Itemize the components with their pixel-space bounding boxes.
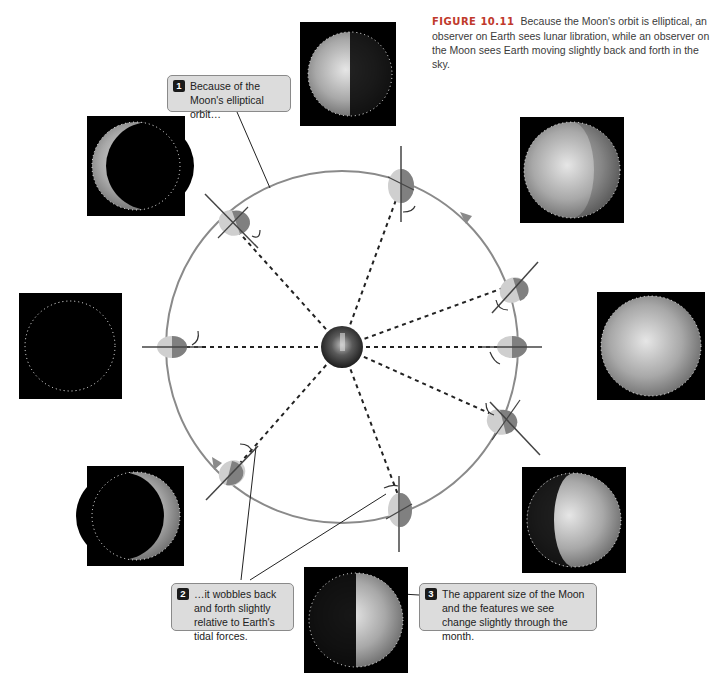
callout-2: 2 …it wobbles back and forth slightly re… — [171, 583, 294, 631]
libration-diagram — [0, 0, 718, 683]
callout-number: 2 — [177, 588, 189, 600]
callout-1-leader — [237, 112, 270, 188]
moon-photo-upper-left — [87, 116, 194, 216]
moon-photo-upper-right — [520, 117, 624, 223]
moon-photo-lower-left — [76, 466, 184, 566]
figure-label: FIGURE 10.11 — [432, 16, 515, 27]
moon-photo-bottom — [304, 567, 408, 673]
moon-photo-right — [597, 292, 705, 400]
moon-marker-right — [482, 336, 542, 364]
figure-caption: FIGURE 10.11 Because the Moon's orbit is… — [432, 14, 717, 71]
moon-marker-upper-left — [205, 194, 260, 248]
callout-number: 3 — [425, 588, 437, 600]
callout-3: 3 The apparent size of the Moon and the … — [419, 583, 597, 631]
moon-marker-bottom — [384, 476, 412, 552]
moon-photo-lower-right — [522, 467, 626, 573]
moon-photo-top — [300, 22, 396, 126]
moon-marker-upper-right — [492, 262, 538, 313]
moon-photo-left — [19, 293, 122, 399]
callout-number: 1 — [173, 80, 185, 92]
moon-marker-lower-right — [482, 400, 540, 455]
callout-1: 1 Because of the Moon's elliptical orbit… — [167, 75, 291, 112]
moon-marker-left — [142, 331, 202, 358]
